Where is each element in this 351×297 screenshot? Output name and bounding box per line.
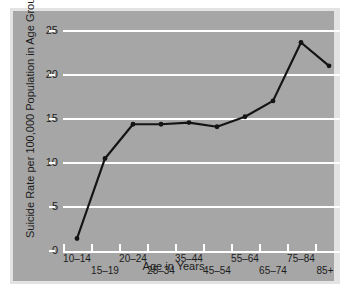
x-axis-title: Age in Years bbox=[13, 260, 334, 272]
chart-figure: 25 20 15 10 5 0 bbox=[0, 0, 351, 297]
data-point bbox=[271, 98, 276, 103]
y-axis-title: Suicide Rate per 100,000 Population in A… bbox=[24, 16, 36, 238]
data-point bbox=[327, 63, 332, 68]
plot-area bbox=[63, 30, 344, 251]
data-point bbox=[75, 236, 80, 241]
y-tick-mark-0 bbox=[49, 250, 55, 252]
chart-panel: 25 20 15 10 5 0 bbox=[13, 11, 334, 281]
y-tick-mark-15 bbox=[49, 118, 55, 120]
data-point bbox=[187, 120, 192, 125]
data-point bbox=[299, 40, 304, 45]
series-line bbox=[77, 43, 329, 239]
y-tick-mark-10 bbox=[49, 162, 55, 164]
data-point bbox=[159, 122, 164, 127]
y-tick-mark-5 bbox=[49, 206, 55, 208]
series-markers bbox=[75, 40, 332, 241]
y-tick-mark-25 bbox=[49, 30, 55, 32]
y-tick-mark-20 bbox=[49, 74, 55, 76]
data-point bbox=[131, 122, 136, 127]
data-point bbox=[103, 156, 108, 161]
data-point bbox=[243, 114, 248, 119]
data-series bbox=[63, 30, 344, 251]
data-point bbox=[215, 124, 220, 129]
